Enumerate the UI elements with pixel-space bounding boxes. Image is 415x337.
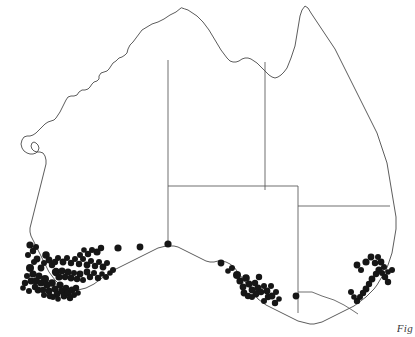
- occurrence-dot: [59, 268, 66, 275]
- occurrence-dot: [372, 260, 378, 266]
- occurrence-dot: [38, 265, 45, 272]
- occurrence-dot: [261, 298, 267, 304]
- occurrence-dot: [256, 274, 262, 280]
- occurrence-dot: [25, 252, 31, 258]
- occurrence-dot: [80, 277, 86, 283]
- occurrence-dot: [81, 247, 87, 253]
- occurrence-dot: [29, 270, 36, 277]
- occurrence-dot: [268, 283, 274, 289]
- occurrence-dot: [71, 270, 77, 276]
- state-borders-group: [168, 60, 390, 314]
- occurrence-dot: [293, 293, 300, 300]
- occurrence-dot: [276, 296, 282, 302]
- occurrence-dot: [351, 294, 357, 300]
- occurrence-dot: [110, 267, 116, 273]
- occurrence-dot: [348, 289, 354, 295]
- occurrence-dot: [240, 284, 247, 291]
- occurrence-dot: [273, 289, 279, 295]
- occurrence-dot: [91, 270, 97, 276]
- occurrence-dot: [20, 285, 26, 291]
- occurrence-dot: [258, 289, 264, 295]
- occurrence-dot: [96, 259, 102, 265]
- occurrence-dot: [50, 294, 56, 300]
- occurrence-dot: [41, 292, 47, 298]
- occurrence-dot: [104, 260, 110, 266]
- occurrence-dot: [114, 244, 121, 251]
- occurrence-dot: [33, 244, 39, 250]
- occurrence-dot: [77, 271, 84, 278]
- occurrence-dot: [389, 267, 395, 273]
- australia-map-svg: [0, 0, 415, 337]
- occurrence-dot: [76, 261, 82, 267]
- occurrence-dot: [55, 273, 62, 280]
- occurrence-dot: [137, 244, 144, 251]
- occurrence-dot: [26, 288, 32, 294]
- occurrence-dot: [64, 268, 71, 275]
- occurrence-dot: [98, 245, 104, 251]
- occurrence-dot: [358, 267, 364, 273]
- occurrence-dot: [218, 260, 225, 267]
- occurrence-dot: [225, 268, 231, 274]
- occurrence-dot: [88, 258, 94, 264]
- occurrence-dots-group: [20, 240, 395, 306]
- occurrence-dot: [31, 259, 37, 265]
- occurrence-dot: [72, 256, 78, 262]
- occurrence-dot: [164, 240, 171, 247]
- occurrence-dot: [264, 288, 271, 295]
- state-border-nsw-vic-border: [298, 292, 358, 314]
- occurrence-dot: [26, 241, 33, 248]
- occurrence-dot: [24, 273, 30, 279]
- occurrence-dot: [245, 280, 252, 287]
- occurrence-dot: [385, 279, 391, 285]
- occurrence-dot: [55, 255, 61, 261]
- occurrence-dot: [75, 290, 81, 296]
- occurrence-dot: [77, 252, 83, 258]
- occurrence-dot: [55, 296, 61, 302]
- occurrence-dot: [362, 258, 369, 265]
- occurrence-dot: [368, 254, 375, 261]
- distribution-map-figure: Fig: [0, 0, 415, 337]
- figure-caption: Fig: [397, 322, 413, 334]
- occurrence-dot: [354, 262, 361, 269]
- occurrence-dot: [64, 255, 70, 261]
